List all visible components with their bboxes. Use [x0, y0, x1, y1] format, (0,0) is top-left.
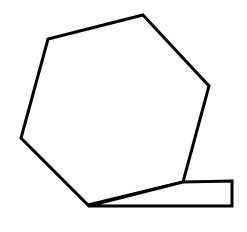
figure-canvas	[0, 0, 247, 232]
